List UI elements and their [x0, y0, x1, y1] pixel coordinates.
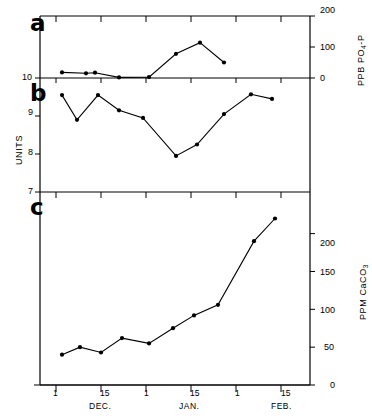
- scientific-figure: a b c 200 100 0 PPB PO4-P 10 9 8 7 UNITS…: [0, 0, 372, 418]
- data-point-a-5: [174, 52, 178, 56]
- panel-c-axis-label-sub: 3: [362, 264, 369, 268]
- panel-c-tick-100: 100: [320, 305, 335, 315]
- data-point-b-4: [141, 116, 145, 120]
- xaxis-tick-label-0: 1: [53, 388, 58, 398]
- xaxis-month-label-feb: FEB.: [271, 401, 292, 411]
- panel-b-tick-7: 7: [28, 186, 33, 196]
- data-point-b-0: [60, 93, 64, 97]
- xaxis-tick-label-5: 15: [281, 388, 290, 398]
- panel-b-axis-label: UNITS: [14, 135, 24, 165]
- axis-ticks: [35, 16, 315, 392]
- series-line-b: [62, 94, 272, 156]
- xaxis-tick-label-3: 15: [190, 388, 199, 398]
- data-point-c-0: [60, 353, 64, 357]
- panel-letter-c: c: [30, 196, 44, 219]
- panel-a-axis-label-prefix: PPB PO: [356, 49, 366, 86]
- plot-canvas: [0, 0, 372, 418]
- data-point-a-1: [84, 71, 88, 75]
- data-point-b-9: [270, 97, 274, 101]
- panel-letter-b: b: [30, 82, 46, 105]
- panel-a-axis-label-suffix: -P: [356, 34, 366, 44]
- data-point-b-6: [195, 142, 199, 146]
- panel-b-tick-10: 10: [22, 72, 32, 82]
- panel-letter-a: a: [30, 12, 46, 35]
- data-point-c-7: [216, 303, 220, 307]
- panel-c-tick-150: 150: [320, 267, 335, 277]
- data-point-c-5: [171, 326, 175, 330]
- series-line-c: [62, 219, 275, 355]
- data-point-a-0: [60, 70, 64, 74]
- data-point-a-7: [222, 60, 226, 64]
- data-point-a-2: [93, 71, 97, 75]
- panel-b-tick-8: 8: [28, 147, 33, 157]
- data-point-b-2: [96, 93, 100, 97]
- data-point-a-6: [198, 41, 202, 45]
- xaxis-tick-label-1: 15: [100, 388, 109, 398]
- xaxis-month-label-jan: JAN.: [179, 401, 199, 411]
- data-point-c-1: [78, 345, 82, 349]
- data-point-c-9: [273, 216, 277, 220]
- panel-a-tick-200: 200: [320, 5, 335, 15]
- xaxis-month-label-dec: DEC.: [89, 401, 111, 411]
- panel-c-tick-200: 200: [320, 238, 335, 248]
- panel-c-tick-50: 50: [324, 342, 334, 352]
- data-series-group: [60, 41, 277, 357]
- xaxis-tick-label-2: 1: [144, 388, 149, 398]
- data-point-b-7: [222, 112, 226, 116]
- panel-c-axis-label: PPM CaCO3: [358, 264, 369, 320]
- panel-a-axis-label-sub: 4: [360, 45, 367, 49]
- data-point-a-4: [147, 75, 151, 79]
- panel-a-axis-label: PPB PO4-P: [356, 34, 367, 86]
- panel-c-axis-label-prefix: PPM CaCO: [358, 268, 368, 320]
- data-point-b-5: [174, 154, 178, 158]
- data-point-c-6: [192, 313, 196, 317]
- data-point-c-4: [147, 341, 151, 345]
- data-point-b-1: [75, 118, 79, 122]
- panel-a-tick-0: 0: [320, 73, 325, 83]
- data-point-c-3: [120, 336, 124, 340]
- panel-b-tick-9: 9: [28, 107, 33, 117]
- data-point-b-3: [117, 108, 121, 112]
- panel-a-tick-100: 100: [320, 42, 335, 52]
- xaxis-tick-label-4: 1: [235, 388, 240, 398]
- panel-c-tick-0: 0: [330, 380, 335, 390]
- data-point-c-8: [252, 239, 256, 243]
- data-point-b-8: [249, 92, 253, 96]
- data-point-c-2: [99, 350, 103, 354]
- data-point-a-3: [117, 75, 121, 79]
